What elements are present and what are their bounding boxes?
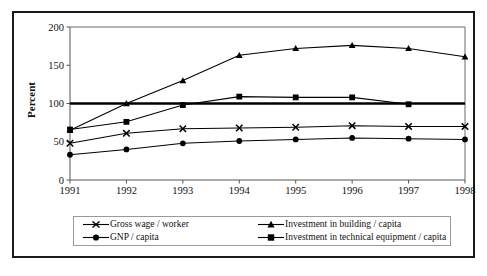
chart-legend: Gross wage / worker GNP / capita <box>73 216 451 246</box>
data-point-marker <box>293 137 299 143</box>
data-point-marker <box>406 136 412 142</box>
legend-label-investment-tech: Investment in technical equipment / capi… <box>285 232 446 243</box>
series-line-path <box>70 45 465 130</box>
series-square <box>67 94 411 133</box>
y-axis-title: Percent <box>25 82 37 118</box>
data-point-marker <box>124 119 130 125</box>
legend-item-investment-tech[interactable]: Investment in technical equipment / capi… <box>257 232 450 244</box>
chart-figure: Percent 050100150200 1991199219931994199… <box>0 0 487 276</box>
data-point-marker <box>180 102 186 108</box>
legend-item-gnp[interactable]: GNP / capita <box>82 232 255 244</box>
series-line-path <box>70 97 409 130</box>
y-tick-label: 200 <box>48 22 64 33</box>
x-tick-label: 1998 <box>455 185 476 196</box>
data-point-marker <box>406 101 412 107</box>
x-tick-label: 1992 <box>116 185 137 196</box>
x-tick-label: 1996 <box>342 185 363 196</box>
data-point-marker <box>179 77 186 83</box>
triangle-marker-icon <box>257 219 285 230</box>
data-point-marker <box>124 147 130 153</box>
data-point-marker <box>180 140 186 146</box>
x-tick-label: 1994 <box>229 185 251 196</box>
series-layer <box>67 42 469 158</box>
legend-column-right: Investment in building / capita Investme… <box>255 217 450 245</box>
data-point-marker <box>293 94 299 100</box>
legend-item-investment-building[interactable]: Investment in building / capita <box>257 219 450 231</box>
legend-item-gross-wage[interactable]: Gross wage / worker <box>82 219 255 231</box>
x-tick-label: 1997 <box>398 185 419 196</box>
series-x <box>67 122 468 146</box>
series-circle <box>67 135 468 158</box>
series-line-path <box>70 138 465 155</box>
y-axis-tick-labels: 050100150200 <box>48 22 64 186</box>
data-point-marker <box>67 152 73 158</box>
data-point-marker <box>236 138 242 144</box>
legend-label-gross-wage: Gross wage / worker <box>110 219 189 230</box>
data-point-marker <box>349 94 355 100</box>
data-point-marker <box>349 135 355 141</box>
x-marker-icon <box>82 219 110 230</box>
square-marker-icon <box>257 232 285 243</box>
x-axis-tick-labels: 19911992199319941995199619971998 <box>60 185 476 196</box>
y-tick-label: 150 <box>48 60 64 71</box>
legend-column-left: Gross wage / worker GNP / capita <box>74 217 255 245</box>
x-tick-label: 1995 <box>285 185 306 196</box>
data-point-marker <box>236 94 242 100</box>
x-tick-label: 1991 <box>60 185 81 196</box>
data-point-marker <box>462 137 468 143</box>
y-axis-title-text: Percent <box>25 82 37 118</box>
x-axis-tick-marks <box>70 180 465 184</box>
legend-label-gnp: GNP / capita <box>110 232 159 243</box>
data-point-marker <box>67 127 73 133</box>
legend-label-investment-building: Investment in building / capita <box>285 219 401 230</box>
circle-marker-icon <box>82 232 110 243</box>
x-tick-label: 1993 <box>172 185 193 196</box>
y-tick-label: 100 <box>48 98 64 109</box>
y-tick-label: 0 <box>59 175 64 186</box>
y-tick-label: 50 <box>54 136 65 147</box>
